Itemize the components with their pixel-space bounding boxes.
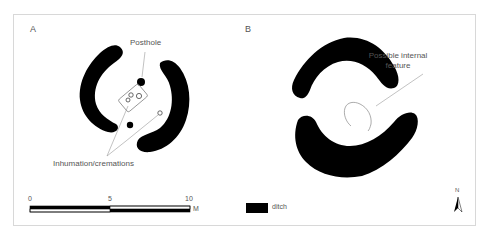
site-plan-drawing: [0, 0, 494, 239]
ditch-a-east: [137, 60, 190, 152]
north-label: N: [455, 187, 459, 193]
burial-circle-1: [129, 93, 133, 97]
burial-circle-3: [136, 93, 141, 98]
scale-tick-0: 0: [28, 195, 32, 202]
internal-feature-outline: [344, 102, 371, 131]
posthole-south: [127, 122, 133, 128]
internal-feature-label-line1: Possible internal: [348, 51, 448, 61]
internal-feature-label-line2: feature: [348, 61, 448, 71]
scale-unit: M: [193, 205, 199, 212]
burial-circle-2: [126, 98, 130, 102]
ditch-b-south: [295, 112, 418, 177]
scale-bar: [30, 206, 190, 212]
legend-ditch-swatch: [246, 203, 268, 213]
leader-posthole: [142, 52, 145, 77]
ditch-a-west: [80, 45, 123, 132]
north-arrow-icon: [454, 197, 462, 212]
posthole-north: [137, 78, 145, 86]
scale-tick-5: 5: [108, 195, 112, 202]
scale-tick-10: 10: [185, 195, 193, 202]
posthole-label: Posthole: [130, 38, 161, 47]
burial-circle-4: [158, 111, 162, 115]
burials-label: Inhumation/cremations: [53, 159, 134, 168]
burial-group: [118, 84, 148, 113]
legend-ditch-label: ditch: [272, 203, 287, 210]
